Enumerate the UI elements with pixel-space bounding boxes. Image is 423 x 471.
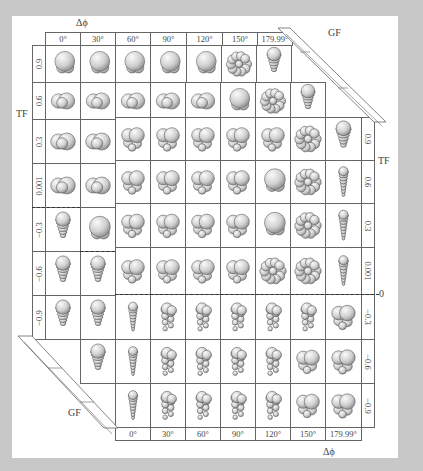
- shell-glyph-icon: [46, 164, 80, 207]
- col-header-30: 30°: [80, 32, 116, 46]
- shell-glyph-icon: [291, 340, 325, 383]
- shell-cell-sheet2-tf0.6-col4: [185, 82, 221, 120]
- right-zero-label: 0: [379, 288, 384, 299]
- shell-glyph-icon: [186, 295, 220, 339]
- row-label-left-neg0.3: −0.3: [32, 207, 46, 252]
- shell-glyph-icon: [256, 340, 290, 383]
- shell-glyph-icon: [291, 384, 325, 427]
- shell-glyph-icon: [256, 248, 290, 294]
- shell-glyph-icon: [186, 161, 220, 203]
- row-label-left-neg0.6: −0.6: [32, 251, 46, 296]
- shell-cell-sheet1-tf0.9-col4: [186, 45, 223, 83]
- shell-cell-main-r4-c2: [185, 294, 221, 340]
- shell-glyph-icon: [326, 340, 361, 383]
- shell-cell-main-r2-c3: [220, 203, 256, 248]
- shell-cell-main-r1-c5: [290, 160, 326, 204]
- shell-glyph-icon: [81, 46, 115, 82]
- shell-glyph-icon: [186, 118, 220, 160]
- row-label-left-0.6: 0.6: [32, 82, 46, 120]
- shell-cell-main-r0-c0: [115, 117, 151, 161]
- shell-cell-main-r2-c2: [185, 203, 221, 248]
- shell-glyph-icon: [256, 295, 290, 339]
- shell-glyph-icon: [221, 384, 255, 427]
- shell-cell-main-r5-c2: [185, 339, 221, 384]
- shell-cell-main-r6-c6: [325, 383, 362, 428]
- shell-cell-main-r2-c1: [150, 203, 186, 248]
- gf-ramp-top: [250, 22, 390, 132]
- gf-ramp-bottom: [14, 330, 124, 440]
- top-delta-phi-label: Δϕ: [76, 17, 88, 28]
- shell-cell-sheet2-col30-row5: [80, 251, 116, 296]
- bottom-col-header-90: 90°: [220, 427, 256, 441]
- row-label-left-0.001: 0.001: [32, 163, 46, 208]
- shell-glyph-icon: [116, 46, 150, 82]
- shell-glyph-icon: [221, 340, 255, 383]
- shell-cell-main-r1-c4: [255, 160, 291, 204]
- shell-cell-sheet1-tf0.9-col3: [150, 45, 187, 83]
- shell-cell-main-r6-c1: [150, 383, 186, 428]
- shell-cell-main-r1-c1: [150, 160, 186, 204]
- col-header-90: 90°: [150, 32, 187, 46]
- shell-cell-sheet2-col30-row3: [80, 163, 116, 208]
- shell-glyph-icon: [256, 161, 290, 203]
- shell-glyph-icon: [186, 340, 220, 383]
- shell-cell-main-r3-c4: [255, 247, 291, 295]
- shell-glyph-icon: [187, 46, 222, 82]
- shell-glyph-icon: [326, 204, 361, 247]
- shell-cell-sheet2-col30-row2: [80, 119, 116, 164]
- shell-cell-main-r5-c3: [220, 339, 256, 384]
- shell-glyph-icon: [151, 118, 185, 160]
- shell-cell-sheet1-tf0.3-col0: [45, 119, 81, 164]
- shell-cell-sheet2-tf0.6-col2: [115, 82, 151, 120]
- shell-glyph-icon: [81, 120, 115, 163]
- shell-cell-sheet1-tf0.9-col2: [115, 45, 151, 83]
- shell-glyph-icon: [291, 161, 325, 203]
- shell-cell-main-r4-c1: [150, 294, 186, 340]
- row-label-right-neg0.6: −0.6: [361, 339, 375, 384]
- shell-glyph-icon: [151, 204, 185, 247]
- tf-zero-divider-sheet2: [80, 251, 115, 252]
- shell-cell-main-r6-c3: [220, 383, 256, 428]
- shell-cell-sheet2-col30-row4: [80, 207, 116, 252]
- shell-glyph-icon: [291, 248, 325, 294]
- shell-glyph-icon: [116, 161, 150, 203]
- shell-glyph-icon: [151, 46, 186, 82]
- row-label-right-0.3: 0.3: [361, 203, 375, 248]
- row-label-right-0.001: 0.001: [361, 247, 375, 295]
- shell-cell-main-r3-c2: [185, 247, 221, 295]
- shell-glyph-icon: [326, 295, 361, 339]
- bottom-col-header-179: 179.99°: [325, 427, 362, 441]
- shell-cell-main-r2-c4: [255, 203, 291, 248]
- col-header-0: 0°: [45, 32, 81, 46]
- shell-glyph-icon: [81, 83, 115, 119]
- shell-glyph-icon: [151, 384, 185, 427]
- shell-glyph-icon: [81, 164, 115, 207]
- shell-cell-main-r1-c0: [115, 160, 151, 204]
- shell-cell-main-r5-c4: [255, 339, 291, 384]
- tf-zero-divider-main: [115, 294, 379, 295]
- shell-glyph-icon: [46, 120, 80, 163]
- shell-cell-sheet1-tf0.6-col0: [45, 82, 81, 120]
- shell-glyph-icon: [46, 252, 80, 295]
- shell-cell-main-r2-c5: [290, 203, 326, 248]
- row-label-left-0.3: 0.3: [32, 119, 46, 164]
- shell-cell-main-r3-c1: [150, 247, 186, 295]
- shell-cell-main-r6-c4: [255, 383, 291, 428]
- shell-cell-main-r0-c2: [185, 117, 221, 161]
- shell-cell-main-r4-c4: [255, 294, 291, 340]
- shell-cell-main-r4-c6: [325, 294, 362, 340]
- shell-glyph-icon: [326, 161, 361, 203]
- shell-glyph-icon: [151, 340, 185, 383]
- shell-glyph-icon: [116, 83, 150, 119]
- shell-glyph-icon: [116, 204, 150, 247]
- tf-zero-divider-sheet1: [32, 207, 80, 208]
- shell-cell-main-r1-c3: [220, 160, 256, 204]
- shell-cell-main-r2-c6: [325, 203, 362, 248]
- shell-cell-main-r4-c5: [290, 294, 326, 340]
- shell-glyph-icon: [256, 204, 290, 247]
- shell-cell-sheet1-tfneg0.6-col0: [45, 251, 81, 296]
- shell-cell-sheet2-tf0.6-col1: [80, 82, 116, 120]
- shell-glyph-icon: [221, 161, 255, 203]
- shell-glyph-icon: [326, 384, 361, 427]
- shell-glyph-icon: [221, 204, 255, 247]
